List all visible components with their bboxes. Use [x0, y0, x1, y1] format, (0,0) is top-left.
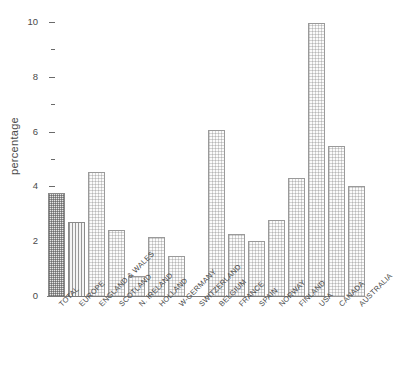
y-axis-title: percentage [8, 106, 20, 186]
y-tick-label: 8 [33, 71, 38, 82]
y-tick-label: 2 [33, 235, 38, 246]
bar-europe[interactable] [68, 222, 85, 297]
y-tick-label: 6 [33, 126, 38, 137]
bar-slot [68, 23, 85, 297]
bar-slot [288, 23, 305, 297]
y-tick-label: 0 [33, 290, 38, 301]
bar-slot [208, 23, 225, 297]
bar-slot [108, 23, 125, 297]
bar-england-wales[interactable] [88, 172, 105, 297]
bar-total[interactable] [48, 193, 65, 297]
bar-slot [328, 23, 345, 297]
bar-slot [88, 23, 105, 297]
bar-australia[interactable] [348, 186, 365, 297]
bar-slot [228, 23, 245, 297]
bar-slot [308, 23, 325, 297]
bar-usa[interactable] [308, 23, 325, 297]
bar-slot [168, 23, 185, 297]
bar-norway[interactable] [268, 220, 285, 297]
bar-canada[interactable] [328, 146, 345, 297]
bar-slot [248, 23, 265, 297]
y-tick-label: 4 [33, 180, 38, 191]
plot-area: 1086420 [47, 23, 330, 297]
bar-slot [268, 23, 285, 297]
bar-slot [348, 23, 365, 297]
bar-slot [48, 23, 65, 297]
y-tick-label: 10 [27, 16, 38, 27]
